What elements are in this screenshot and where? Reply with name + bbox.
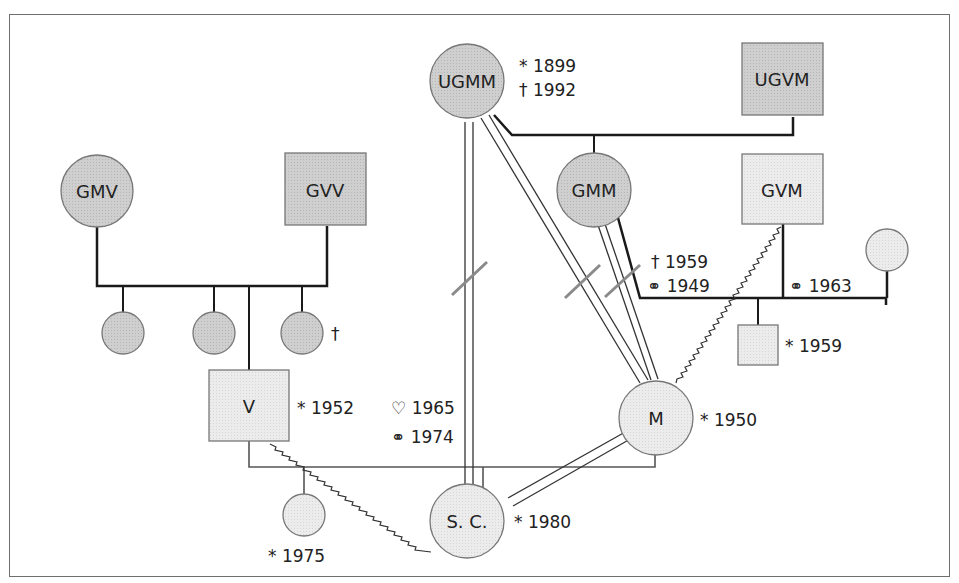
genogram-canvas: UGMM * 1899 † 1992 UGVM GMV GVV GMM GVM — [0, 0, 959, 583]
diagram-frame — [9, 14, 950, 577]
